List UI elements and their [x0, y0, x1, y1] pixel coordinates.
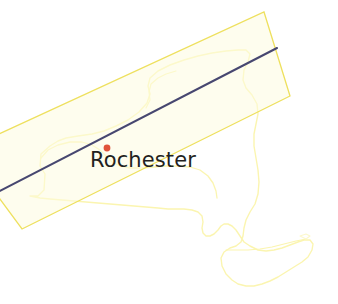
- swath-rectangle-shape: [0, 12, 290, 229]
- city-label-rochester: Rochester: [90, 150, 196, 171]
- map-figure: Rochester: [0, 0, 338, 304]
- offshore-island-path: [300, 234, 310, 239]
- swath-rectangle: [0, 12, 290, 229]
